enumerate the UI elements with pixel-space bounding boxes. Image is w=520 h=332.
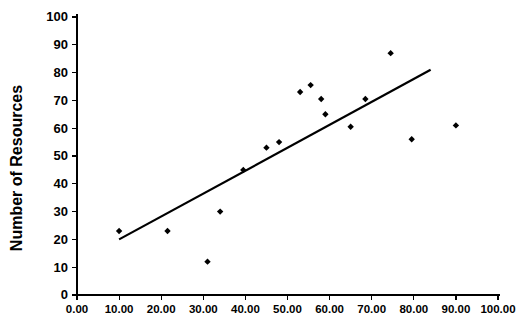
- data-point: [322, 111, 328, 117]
- data-point: [318, 96, 324, 102]
- x-tick-label: 100.00: [480, 303, 515, 315]
- y-tick-label: 80: [54, 65, 68, 80]
- y-tick-label: 40: [54, 176, 68, 191]
- x-tick-label: 50.00: [273, 303, 302, 315]
- data-point: [217, 208, 223, 214]
- data-point: [453, 122, 459, 128]
- plot-area: 01020304050607080901000.0010.0020.0030.0…: [0, 0, 520, 332]
- x-tick-label: 0.00: [66, 303, 88, 315]
- x-tick-label: 70.00: [357, 303, 386, 315]
- data-point: [204, 258, 210, 264]
- y-tick-label: 100: [46, 9, 68, 24]
- x-tick-label: 80.00: [399, 303, 428, 315]
- data-point: [347, 124, 353, 130]
- y-tick-label: 10: [54, 260, 68, 275]
- data-point: [276, 139, 282, 145]
- x-tick-label: 60.00: [315, 303, 344, 315]
- data-point: [387, 50, 393, 56]
- data-point: [164, 228, 170, 234]
- y-axis-title: Number of Resources: [8, 85, 25, 251]
- y-tick-label: 30: [54, 204, 68, 219]
- trend-line: [119, 70, 431, 240]
- x-tick-label: 20.00: [147, 303, 176, 315]
- y-tick-label: 0: [61, 287, 68, 302]
- data-point: [362, 96, 368, 102]
- data-point: [307, 82, 313, 88]
- scatter-chart: 01020304050607080901000.0010.0020.0030.0…: [0, 0, 520, 332]
- y-tick-label: 70: [54, 93, 68, 108]
- data-point: [297, 89, 303, 95]
- data-point: [408, 136, 414, 142]
- y-tick-label: 50: [54, 148, 68, 163]
- x-tick-label: 10.00: [105, 303, 134, 315]
- data-point: [116, 228, 122, 234]
- x-tick-label: 30.00: [189, 303, 218, 315]
- data-point: [263, 144, 269, 150]
- y-tick-label: 90: [54, 37, 68, 52]
- x-tick-label: 90.00: [442, 303, 471, 315]
- y-tick-label: 20: [54, 232, 68, 247]
- x-tick-label: 40.00: [231, 303, 260, 315]
- y-tick-label: 60: [54, 121, 68, 136]
